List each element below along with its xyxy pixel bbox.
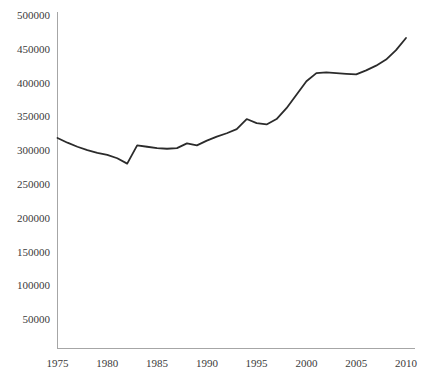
y-tick-label: 100000: [0, 280, 50, 291]
x-tick-label: 2010: [395, 358, 417, 369]
y-tick-label: 500000: [0, 10, 50, 21]
y-tick-label: 250000: [0, 178, 50, 189]
y-tick-label: 50000: [0, 314, 50, 325]
y-tick-label: 150000: [0, 246, 50, 257]
x-tick-label: 1990: [196, 358, 218, 369]
x-tick-label: 2000: [295, 358, 317, 369]
y-tick-label: 300000: [0, 145, 50, 156]
x-tick-label: 1975: [47, 358, 69, 369]
y-tick-label: 200000: [0, 212, 50, 223]
plot-area: [0, 0, 427, 380]
y-tick-label: 400000: [0, 77, 50, 88]
y-tick-label: 450000: [0, 43, 50, 54]
x-tick-label: 1980: [96, 358, 118, 369]
x-tick-label: 1985: [146, 358, 168, 369]
y-tick-label: 350000: [0, 111, 50, 122]
x-tick-label: 1995: [246, 358, 268, 369]
data-series-line: [58, 38, 407, 164]
x-tick-label: 2005: [345, 358, 367, 369]
line-chart: 5000010000015000020000025000030000035000…: [0, 0, 427, 380]
